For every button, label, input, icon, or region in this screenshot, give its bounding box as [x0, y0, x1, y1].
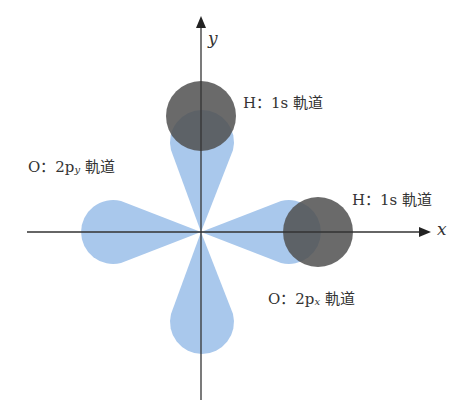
y-axis-arrow-icon	[196, 16, 206, 28]
label-o-2px-suffix: 軌道	[325, 290, 355, 308]
x-axis-arrow-icon	[419, 227, 431, 237]
label-h-1s-right-prefix: H：1s	[352, 191, 397, 209]
label-o-2py-suffix: 軌道	[85, 158, 115, 176]
label-o-2px-prefix: O：2p	[268, 290, 314, 308]
label-o-2py-prefix: O：2p	[28, 158, 74, 176]
label-o-2py-subscript: y	[74, 164, 80, 175]
x-axis-label: x	[437, 219, 447, 239]
label-o-2py: O：2py 軌道	[28, 158, 115, 179]
y-axis-label: y	[208, 28, 218, 48]
label-o-2px: O：2px 軌道	[268, 290, 355, 311]
label-h-1s-top-prefix: H：1s	[243, 94, 288, 112]
label-h-1s-top-suffix: 軌道	[293, 94, 323, 112]
label-h-1s-right: H：1s 軌道	[352, 191, 432, 209]
label-h-1s-right-suffix: 軌道	[402, 191, 432, 209]
o-2py-lobe-down	[170, 232, 234, 354]
label-o-2px-subscript: x	[314, 296, 320, 307]
label-h-1s-top: H：1s 軌道	[243, 94, 323, 112]
